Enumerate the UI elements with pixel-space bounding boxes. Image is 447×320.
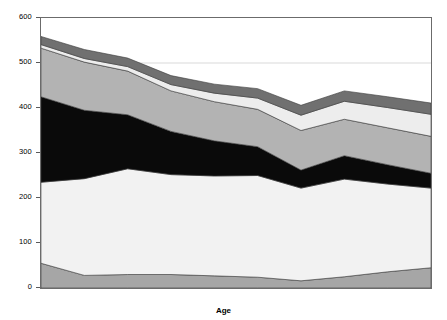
x-axis-title: Age bbox=[0, 306, 447, 315]
sleep-stage-area-chart: 0100200300400500600 Age bbox=[0, 0, 447, 320]
x-axis-labels bbox=[0, 0, 447, 320]
